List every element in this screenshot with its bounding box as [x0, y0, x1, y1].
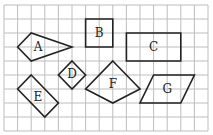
shape-d-label: D [67, 67, 77, 81]
shape-e-label: E [34, 90, 43, 104]
shapes-grid-diagram: ABCDEFG Shapes on a square grid [0, 0, 213, 135]
shape-f-label: F [109, 77, 117, 91]
shape-a-label: A [33, 40, 43, 54]
shape-e: E [18, 75, 59, 117]
shapes: ABCDEFG [18, 19, 195, 117]
shape-c-label: C [149, 40, 158, 54]
shape-b-label: B [95, 26, 104, 40]
shape-g-label: G [162, 82, 172, 96]
